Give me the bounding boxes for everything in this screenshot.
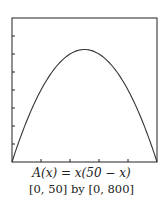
plot-frame [12, 18, 157, 162]
parabola-curve [12, 50, 157, 163]
function-label: A(x) = x(50 − x) [0, 166, 163, 180]
window-label: [0, 50] by [0, 800] [0, 182, 163, 196]
